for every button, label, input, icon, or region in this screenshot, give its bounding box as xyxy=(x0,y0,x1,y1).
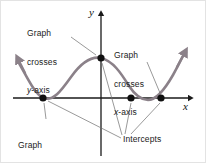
annotation-crosses-y-line2: crosses xyxy=(27,58,57,68)
annotation-crosses-y-suffix: -axis xyxy=(31,85,49,95)
annotation-crosses-x-axis: Graph crosses x-axis xyxy=(114,32,144,137)
polynomial-graph-figure: y x Graph crosses y-axis Graph crosses x… xyxy=(0,0,206,163)
annotation-crosses-x-line2: crosses xyxy=(114,80,144,90)
leader-crosses-y xyxy=(71,37,96,55)
annotation-crosses-y-line3: y-axis xyxy=(27,86,57,96)
annotation-touches-x-axis: Graph touches x-axis xyxy=(18,122,48,163)
point-x-intercept-right xyxy=(157,94,164,101)
leader-crosses-x xyxy=(147,62,160,93)
y-axis-label: y xyxy=(89,6,94,18)
annotation-intercepts: Intercepts xyxy=(123,135,161,145)
curve-right-arrow xyxy=(177,54,184,67)
annotation-crosses-y-axis: Graph crosses y-axis xyxy=(27,10,57,115)
annotation-crosses-x-suffix: -axis xyxy=(118,107,136,117)
point-y-intercept xyxy=(97,54,104,61)
annotation-crosses-x-line1: Graph xyxy=(114,51,144,61)
x-axis-label: x xyxy=(183,100,188,112)
leader-intercept-tangent xyxy=(48,101,121,138)
annotation-crosses-x-line3: x-axis xyxy=(114,108,144,118)
annotation-touches-x-line1: Graph xyxy=(18,141,48,151)
annotation-crosses-y-line1: Graph xyxy=(27,29,57,39)
